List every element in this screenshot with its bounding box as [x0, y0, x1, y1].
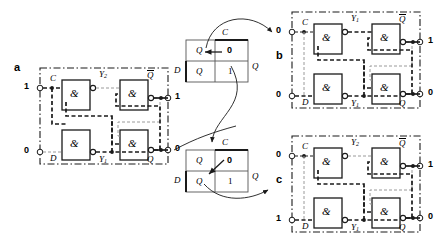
panel-b-gate-2-symbol: &: [322, 82, 331, 93]
table-bottom-side-label: Q: [252, 172, 259, 181]
table-bottom-col-header: C: [222, 138, 228, 147]
panel-c-output-q-label: Q: [399, 223, 406, 232]
table-bottom-row-header: D: [174, 176, 181, 185]
panel-c-node-y2: Y2: [351, 138, 359, 147]
panel-c-input-c-label: C: [302, 142, 308, 151]
diagram-canvas: [0, 0, 444, 251]
panel-a-node-y2: Y2: [99, 70, 107, 79]
panel-b-input-d-label: D: [302, 98, 309, 107]
panel-c-node-y1: Y1: [351, 223, 359, 232]
panel-a-output-qbar-value: 1: [175, 92, 180, 101]
panel-b-output-q-value: 0: [428, 88, 433, 97]
panel-b-input-c-value: 0: [276, 26, 281, 35]
panel-a-gate-4-symbol: &: [128, 138, 137, 149]
panel-a-input-d-label: D: [50, 154, 57, 163]
panel-a-gate-3-symbol: &: [128, 88, 137, 99]
table-top-col-header: C: [222, 28, 228, 37]
panel-a-input-c-value: 1: [24, 82, 29, 91]
panel-b-gate-3-symbol: &: [380, 32, 389, 43]
panel-a-input-d-value: 0: [24, 146, 29, 155]
panel-a-graphics: [37, 68, 171, 164]
table-top-cell-0-0: Q: [196, 46, 203, 55]
panel-a-input-c-label: C: [50, 74, 56, 83]
panel-a-gate-1-symbol: &: [70, 88, 79, 99]
panel-c-output-qbar-value: 1: [428, 160, 433, 169]
panel-b-gate-1-symbol: &: [322, 32, 331, 43]
table-top-cell-1-1: 1: [228, 67, 233, 76]
panel-b-output-qbar-label: Q: [399, 14, 406, 24]
panel-label-b: b: [276, 50, 283, 61]
panel-b-output-q-label: Q: [399, 99, 406, 108]
panel-c-graphics: [289, 136, 423, 232]
table-top-cell-1-0: Q: [196, 67, 203, 76]
panel-a-output-q-value: 0: [175, 144, 180, 153]
table-bottom-cell-0-1: 0: [227, 156, 232, 165]
panel-b-node-y1-bottom: Y1: [351, 99, 359, 108]
figure-root: a 1 0 C D Y2 Y1 Q Q 1 0 & & & & C D Q Q …: [0, 0, 444, 251]
panel-c-gate-2-symbol: &: [322, 206, 331, 217]
panel-b-gate-4-symbol: &: [380, 82, 389, 93]
panel-c-output-q-value: 0: [428, 212, 433, 221]
panel-b-output-qbar-value: 1: [428, 36, 433, 45]
panel-c-gate-1-symbol: &: [322, 156, 331, 167]
table-bottom-cell-1-0: Q: [196, 177, 203, 186]
panel-c-gate-3-symbol: &: [380, 156, 389, 167]
panel-b-input-c-label: C: [302, 18, 308, 27]
table-top-side-label: Q: [252, 62, 259, 71]
panel-label-a: a: [14, 62, 20, 73]
panel-c-gate-4-symbol: &: [380, 206, 389, 217]
panel-c-output-qbar-label: Q: [399, 138, 406, 148]
panel-b-graphics: [289, 12, 423, 108]
table-top-row-header: D: [174, 66, 181, 75]
panel-c-input-d-label: D: [302, 222, 309, 231]
panel-a-output-q-label: Q: [147, 155, 154, 164]
table-bottom-cell-1-1: 1: [228, 177, 233, 186]
panel-c-input-d-value: 1: [276, 214, 281, 223]
table-top-cell-0-1: 0: [227, 46, 232, 55]
panel-a-output-qbar-label: Q: [147, 70, 154, 80]
panel-a-node-y1: Y1: [99, 155, 107, 164]
panel-b-input-d-value: 0: [276, 90, 281, 99]
panel-a-gate-2-symbol: &: [70, 138, 79, 149]
panel-b-node-y1-top: Y1: [351, 14, 359, 23]
table-bottom-cell-0-0: Q: [196, 156, 203, 165]
panel-label-c: c: [276, 174, 282, 185]
panel-c-input-c-value: 0: [276, 150, 281, 159]
